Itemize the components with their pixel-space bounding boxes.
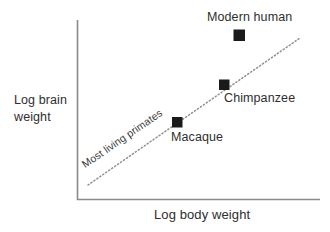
data-point-chimpanzee [219,80,230,91]
point-label-macaque: Macaque [171,130,223,145]
x-axis-label: Log body weight [154,208,250,223]
point-label-chimpanzee: Chimpanzee [224,91,295,106]
brain-body-weight-scatter-chart: Log brain weight Log body weight Modern … [0,0,330,232]
y-axis-label-line1: Log brain [14,93,67,107]
y-axis-label-line2: weight [14,110,51,124]
data-point-macaque [172,117,183,128]
data-point-modern-human [234,30,246,42]
chart-axes [78,20,321,200]
y-axis-label: Log brain weight [14,92,82,126]
point-label-modern-human: Modern human [207,10,292,25]
trend-line-most-living-primates [88,38,300,185]
